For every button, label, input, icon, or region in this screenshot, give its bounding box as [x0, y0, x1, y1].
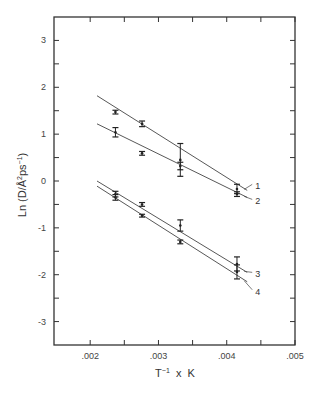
svg-text:0: 0 — [41, 176, 46, 186]
svg-text:3: 3 — [41, 35, 46, 45]
svg-text:.004: .004 — [218, 351, 236, 361]
svg-text:.002: .002 — [81, 351, 99, 361]
svg-text:-1: -1 — [38, 223, 46, 233]
x-axis-label: T−1 x K — [155, 367, 195, 380]
svg-text:2: 2 — [41, 82, 46, 92]
series-label: 2 — [255, 196, 260, 206]
series-1: 1 — [97, 96, 260, 194]
svg-text:.005: .005 — [286, 351, 304, 361]
svg-text:1: 1 — [41, 129, 46, 139]
svg-text:.003: .003 — [150, 351, 168, 361]
series-4: 4 — [97, 186, 260, 297]
series-2: 2 — [97, 124, 260, 207]
series-label: 1 — [255, 181, 260, 191]
data-series: 1234 — [97, 96, 260, 297]
svg-text:-2: -2 — [38, 270, 46, 280]
arrhenius-plot: .002.003.004.005-3-2-10123 1234 — [0, 0, 314, 394]
series-label: 3 — [255, 269, 260, 279]
series-label: 4 — [255, 287, 260, 297]
y-axis-label: Ln (D/Å2ps−1) — [16, 153, 29, 217]
tick-labels: .002.003.004.005-3-2-10123 — [38, 35, 304, 361]
svg-text:-3: -3 — [38, 317, 46, 327]
